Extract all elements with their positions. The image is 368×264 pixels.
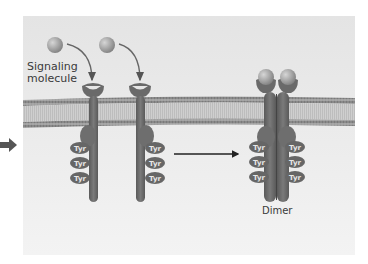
svg-text:Tyr: Tyr — [149, 145, 162, 153]
svg-text:Tyr: Tyr — [289, 174, 302, 182]
svg-text:Tyr: Tyr — [74, 160, 87, 168]
signaling-molecule-1 — [47, 37, 63, 53]
cell-membrane — [23, 96, 355, 128]
svg-text:Tyr: Tyr — [74, 175, 87, 183]
svg-text:Tyr: Tyr — [253, 159, 266, 167]
svg-text:Tyr: Tyr — [149, 175, 162, 183]
bound-signaling-molecule-1 — [258, 69, 274, 85]
diagram-panel — [23, 16, 355, 255]
dimer-label: Dimer — [262, 205, 293, 216]
bound-signaling-molecule-2 — [280, 69, 296, 85]
svg-text:Tyr: Tyr — [253, 174, 266, 182]
tyr-domain-left: Tyr Tyr Tyr — [249, 141, 269, 183]
signaling-molecule-label-line2: molecule — [27, 72, 77, 85]
svg-text:Tyr: Tyr — [289, 159, 302, 167]
svg-text:Tyr: Tyr — [74, 145, 87, 153]
signaling-molecule-2 — [99, 37, 115, 53]
svg-text:Tyr: Tyr — [253, 144, 266, 152]
incoming-arrow-icon — [0, 138, 17, 152]
rtk-dimerization-diagram: Signaling molecule Tyr Tyr Tyr Tyr Tyr T… — [0, 0, 368, 264]
svg-text:Tyr: Tyr — [149, 160, 162, 168]
tyr-domain: Tyr Tyr Tyr — [145, 142, 165, 184]
tyr-domain: Tyr Tyr Tyr — [70, 142, 90, 184]
svg-text:Tyr: Tyr — [289, 144, 302, 152]
tyr-domain-right: Tyr Tyr Tyr — [285, 141, 305, 183]
